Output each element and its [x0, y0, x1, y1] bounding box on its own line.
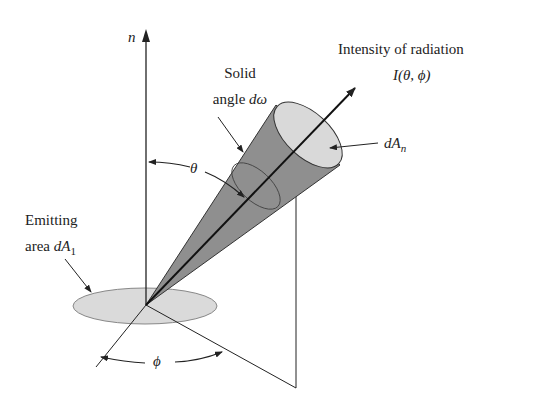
intensity-label-line2: I(θ, ϕ)	[393, 66, 431, 84]
phi-label: ϕ	[153, 352, 161, 370]
theta-arc-left	[149, 162, 190, 167]
radiation-diagram	[0, 0, 549, 407]
intensity-ray	[146, 88, 355, 305]
solid-angle-symbol: dω	[249, 91, 267, 107]
solid-angle-pointer	[218, 117, 243, 152]
intensity-label-line1: Intensity of radiation	[338, 40, 464, 58]
projected-area-label: dAn	[384, 134, 406, 157]
phi-arc-right	[175, 352, 222, 362]
normal-axis-label: n	[128, 28, 136, 46]
emitting-area-pointer	[65, 259, 91, 292]
solid-angle-label-line2: angle dω	[175, 90, 305, 108]
emitting-area-label-line1: Emitting	[25, 211, 78, 229]
projection-line	[146, 305, 296, 388]
phi-arc-left	[101, 357, 145, 363]
normal-axis-arrowhead	[142, 29, 150, 42]
theta-label: θ	[190, 159, 197, 177]
solid-angle-label-line1: Solid	[185, 64, 295, 82]
emitting-area-label-line2: area dA1	[25, 237, 76, 260]
